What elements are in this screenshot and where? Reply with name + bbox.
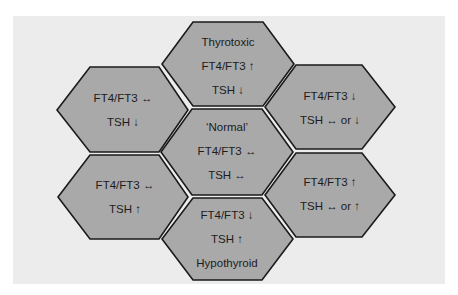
hex-center-line-2: FT4/FT3 ↔ bbox=[198, 145, 257, 157]
hexagon-diagram: Thyrotoxic FT4/FT3 ↑ TSH ↓ FT4/FT3 ↔ TSH… bbox=[0, 0, 458, 295]
hex-lower-left-line-2: TSH ↑ bbox=[109, 203, 141, 215]
hex-upper-right-line-1: FT4/FT3 ↓ bbox=[303, 90, 356, 102]
hex-bottom-line-3: Hypothyroid bbox=[196, 257, 257, 269]
hex-lower-right-line-2: TSH ↔ or ↑ bbox=[300, 200, 360, 212]
hex-cell-normal: ‘Normal’ FT4/FT3 ↔ TSH ↔ bbox=[161, 109, 293, 195]
hex-lower-right-line-1: FT4/FT3 ↑ bbox=[303, 176, 356, 188]
hex-center-line-1: ‘Normal’ bbox=[206, 121, 248, 133]
hex-cell-hypothyroid: FT4/FT3 ↓ TSH ↑ Hypothyroid bbox=[162, 198, 293, 280]
hex-cell-upper-left: FT4/FT3 ↔ TSH ↓ bbox=[57, 67, 188, 152]
hex-cell-lower-right: FT4/FT3 ↑ TSH ↔ or ↑ bbox=[265, 153, 395, 237]
hex-lower-left-line-1: FT4/FT3 ↔ bbox=[96, 179, 155, 191]
hex-upper-left-line-1: FT4/FT3 ↔ bbox=[94, 92, 153, 104]
hex-top-line-2: FT4/FT3 ↑ bbox=[201, 60, 254, 72]
hexagon-upper-left bbox=[57, 67, 188, 152]
hex-upper-left-line-2: TSH ↓ bbox=[107, 116, 139, 128]
hex-top-line-3: TSH ↓ bbox=[212, 84, 244, 96]
hex-cell-lower-left: FT4/FT3 ↔ TSH ↑ bbox=[58, 155, 188, 239]
hex-upper-right-line-2: TSH ↔ or ↓ bbox=[300, 114, 360, 126]
hexagon-lower-right bbox=[265, 153, 395, 237]
hex-top-line-1: Thyrotoxic bbox=[201, 36, 254, 48]
hexagon-lower-left bbox=[58, 155, 188, 239]
hex-center-line-3: TSH ↔ bbox=[208, 169, 246, 181]
hex-bottom-line-1: FT4/FT3 ↓ bbox=[200, 209, 253, 221]
hex-bottom-line-2: TSH ↑ bbox=[211, 233, 243, 245]
